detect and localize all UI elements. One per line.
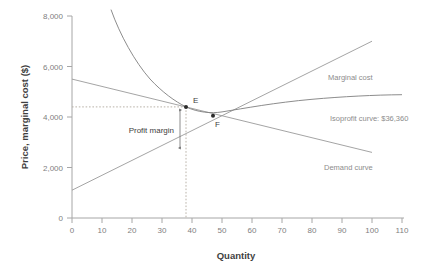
x-tick-label-80: 80 bbox=[308, 226, 317, 235]
profit-margin-label: Profit margin bbox=[129, 126, 174, 135]
x-tick-label-90: 90 bbox=[338, 226, 347, 235]
y-axis-title: Price, marginal cost ($) bbox=[19, 65, 30, 170]
isoprofit-curve-series-label: Isoprofit curve: $36,360 bbox=[330, 114, 408, 123]
x-tick-label-60: 60 bbox=[248, 226, 257, 235]
y-tick-label-4000: 4,000 bbox=[43, 113, 64, 122]
x-axis-title: Quantity bbox=[217, 250, 256, 261]
economics-chart: 8,000 6,000 4,000 2,000 0 0 10 20 30 40 … bbox=[0, 0, 424, 275]
marginal-cost-series-label: Marginal cost bbox=[328, 73, 374, 82]
x-tick-label-110: 110 bbox=[396, 226, 409, 235]
profit-margin-annotation: Profit margin bbox=[129, 110, 180, 148]
isoprofit-curve-line bbox=[111, 10, 402, 113]
demand-curve-line bbox=[72, 79, 372, 152]
y-tick-label-6000: 6,000 bbox=[43, 63, 64, 72]
x-tick-label-70: 70 bbox=[278, 226, 287, 235]
point-F-marker bbox=[211, 114, 215, 118]
point-F-label: F bbox=[215, 120, 220, 129]
y-tick-label-8000: 8,000 bbox=[43, 12, 64, 21]
x-tick-label-0: 0 bbox=[70, 226, 75, 235]
y-tick-label-0: 0 bbox=[59, 214, 64, 223]
x-tick-label-40: 40 bbox=[188, 226, 197, 235]
point-E-marker bbox=[184, 105, 188, 109]
y-axis bbox=[67, 16, 72, 218]
x-axis bbox=[72, 218, 404, 223]
point-E-label: E bbox=[193, 96, 198, 105]
x-tick-label-50: 50 bbox=[218, 226, 227, 235]
y-tick-label-2000: 2,000 bbox=[43, 164, 64, 173]
chart-canvas: 8,000 6,000 4,000 2,000 0 0 10 20 30 40 … bbox=[0, 0, 424, 275]
x-tick-label-20: 20 bbox=[128, 226, 137, 235]
x-tick-label-30: 30 bbox=[158, 226, 167, 235]
demand-curve-series-label: Demand curve bbox=[324, 163, 373, 172]
x-tick-label-10: 10 bbox=[98, 226, 107, 235]
x-tick-label-100: 100 bbox=[365, 226, 379, 235]
